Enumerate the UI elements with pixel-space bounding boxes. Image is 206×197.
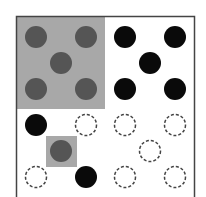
- black-dot-icon: [114, 26, 136, 48]
- dashed-circle-icon: [26, 167, 47, 188]
- black-dot-icon: [25, 114, 47, 136]
- dot-grid-diagram: [0, 0, 206, 197]
- dashed-circle-icon: [165, 167, 186, 188]
- gray-dot-icon: [25, 26, 47, 48]
- dashed-circle-icon: [140, 141, 161, 162]
- black-dot-icon: [164, 78, 186, 100]
- gray-dot-icon: [75, 78, 97, 100]
- black-dot-icon: [139, 52, 161, 74]
- dashed-circle-icon: [165, 115, 186, 136]
- dashed-circle-icon: [115, 115, 136, 136]
- gray-dot-icon: [50, 52, 72, 74]
- black-dot-icon: [114, 78, 136, 100]
- gray-dot-icon: [50, 140, 72, 162]
- dashed-circle-icon: [115, 167, 136, 188]
- dashed-circle-icon: [76, 115, 97, 136]
- gray-dot-icon: [75, 26, 97, 48]
- black-dot-icon: [164, 26, 186, 48]
- black-dot-icon: [75, 166, 97, 188]
- gray-dot-icon: [25, 78, 47, 100]
